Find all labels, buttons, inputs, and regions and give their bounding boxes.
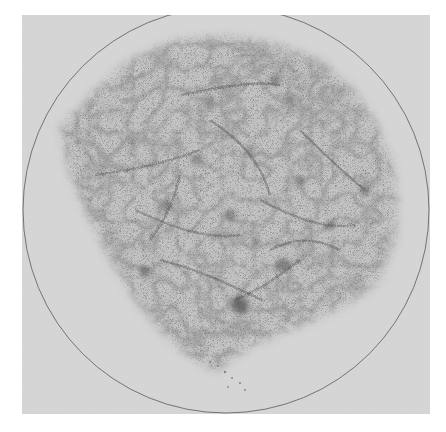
galaxy-cluster: [190, 155, 200, 165]
galaxy-cluster: [269, 74, 281, 86]
galaxy-cluster: [231, 296, 249, 314]
sparse-galaxy-dot: [231, 377, 233, 379]
galaxy-map-figure: [0, 0, 446, 432]
sparse-galaxy-dot: [217, 365, 219, 367]
galaxy-cluster: [205, 95, 215, 105]
sparse-galaxy-dot: [227, 386, 229, 388]
galaxy-cluster: [160, 200, 170, 210]
sparse-galaxy-dot: [224, 371, 226, 373]
galaxy-cluster: [276, 258, 290, 272]
galaxy-cluster: [126, 136, 134, 144]
galaxy-cluster: [139, 266, 151, 278]
sparse-galaxy-dot: [239, 382, 241, 384]
galaxy-map-svg: [0, 0, 446, 432]
plate: [22, 7, 430, 414]
galaxy-cluster: [325, 220, 335, 230]
galaxy-cluster: [359, 184, 371, 196]
sparse-galaxy-dot: [209, 361, 211, 363]
galaxy-cluster: [224, 209, 236, 221]
galaxy-cluster: [245, 145, 255, 155]
galaxy-cluster: [251, 236, 259, 244]
galaxy-cluster: [295, 175, 305, 185]
sparse-galaxy-dot: [244, 389, 246, 391]
galaxy-cluster: [285, 95, 295, 105]
